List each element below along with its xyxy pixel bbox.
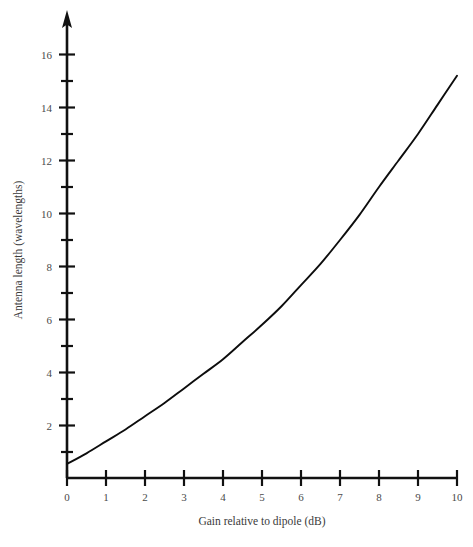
antenna-length-vs-gain-chart: 2 4 6 8 10 12 14 16 0 1 2 3 4 5 6 7 8 9 …: [0, 0, 473, 547]
x-tick-label-10: 10: [452, 491, 464, 503]
y-tick-label-10: 10: [41, 208, 53, 220]
y-tick-label-2: 2: [47, 420, 53, 432]
y-tick-label-6: 6: [47, 314, 53, 326]
x-tick-label-6: 6: [298, 491, 304, 503]
x-tick-label-3: 3: [181, 491, 187, 503]
y-tick-label-12: 12: [41, 155, 52, 167]
y-tick-label-14: 14: [41, 102, 53, 114]
x-tick-label-7: 7: [337, 491, 343, 503]
x-tick-label-9: 9: [415, 491, 421, 503]
x-axis-title: Gain relative to dipole (dB): [198, 515, 325, 528]
x-tick-label-4: 4: [220, 491, 226, 503]
y-tick-label-4: 4: [47, 367, 53, 379]
y-axis-title: Antenna length (wavelengths): [12, 181, 25, 320]
y-tick-label-8: 8: [47, 261, 53, 273]
x-tick-label-0: 0: [64, 491, 70, 503]
y-tick-label-16: 16: [41, 49, 53, 61]
x-tick-label-1: 1: [103, 491, 109, 503]
x-tick-label-2: 2: [142, 491, 148, 503]
x-tick-label-5: 5: [259, 491, 265, 503]
x-tick-label-8: 8: [376, 491, 382, 503]
